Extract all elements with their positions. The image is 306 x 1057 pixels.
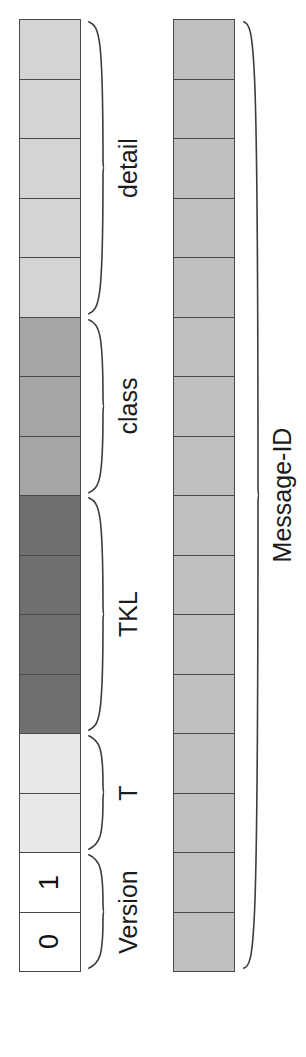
bit-cell [173, 376, 235, 437]
bit-cell [173, 436, 235, 497]
bit-cell [173, 317, 235, 378]
message-id-column [173, 19, 235, 971]
bit-cell [19, 436, 81, 497]
bit-cell [173, 674, 235, 735]
brace-detail [88, 21, 105, 315]
bit-cell [173, 19, 235, 80]
bit-cell [173, 198, 235, 259]
field-label-t: T [116, 785, 141, 800]
bit-cell [173, 555, 235, 616]
bit-cell [173, 793, 235, 854]
bit-cell [173, 852, 235, 913]
bit-cell [19, 555, 81, 616]
bit-cell [19, 495, 81, 556]
field-label-message-id: Message-ID [270, 428, 295, 563]
bit-cell [173, 912, 235, 973]
bit-cell [19, 376, 81, 437]
bit-cell [173, 257, 235, 318]
bit-cell [19, 733, 81, 794]
bit-cell [19, 793, 81, 854]
field-label-detail: detail [116, 138, 141, 198]
bit-cell [19, 614, 81, 675]
bit-cell [173, 614, 235, 675]
bit-cell: 0 [19, 912, 81, 973]
bit-cell [173, 79, 235, 140]
field-label-class: class [116, 377, 141, 434]
brace-version [88, 854, 105, 969]
bit-cell [19, 674, 81, 735]
bit-cell: 1 [19, 852, 81, 913]
bit-cell [19, 317, 81, 378]
bit-cell [173, 733, 235, 794]
field-label-version: Version [116, 870, 141, 953]
brace-message-id [243, 21, 260, 969]
code-byte-column: 10 [19, 19, 81, 971]
bit-cell [19, 257, 81, 318]
bit-cell [173, 495, 235, 556]
diagram-canvas: 10 detailclassTKLTVersionMessage-ID [0, 0, 306, 1057]
bit-cell [19, 19, 81, 80]
bit-cell [173, 138, 235, 199]
bit-cell [19, 198, 81, 259]
bit-value-label: 0 [37, 934, 64, 949]
bit-cell [19, 79, 81, 140]
bit-cell [19, 138, 81, 199]
brace-tkl [88, 497, 105, 731]
bit-value-label: 1 [37, 875, 64, 890]
brace-class [88, 319, 105, 494]
field-label-tkl: TKL [116, 591, 141, 637]
brace-t [88, 735, 105, 850]
